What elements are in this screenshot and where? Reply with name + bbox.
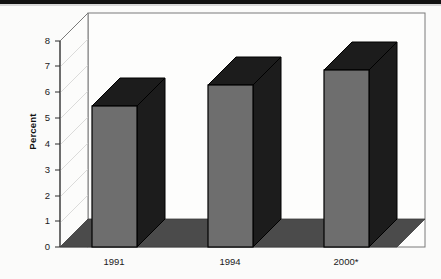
bar-1991 bbox=[92, 78, 165, 247]
bar-chart-3d: Percent 8 7 6 5 4 3 2 1 0 1991 1994 2000… bbox=[0, 0, 441, 279]
y-tick-label-8: 8 bbox=[28, 36, 50, 46]
y-tick-label-1: 1 bbox=[28, 216, 50, 226]
bar-1994 bbox=[208, 57, 281, 247]
bar-2000-side bbox=[369, 42, 397, 247]
chart-canvas bbox=[0, 0, 441, 279]
x-tick-label-1994: 1994 bbox=[195, 256, 265, 267]
y-axis-ticks bbox=[55, 41, 60, 247]
y-tick-label-2: 2 bbox=[28, 191, 50, 201]
y-tick-label-4: 4 bbox=[28, 139, 50, 149]
bar-1994-front bbox=[208, 85, 253, 247]
bar-2000-front bbox=[324, 70, 369, 247]
y-tick-label-7: 7 bbox=[28, 61, 50, 71]
bar-1994-side bbox=[253, 57, 281, 247]
y-tick-label-0: 0 bbox=[28, 242, 50, 252]
bar-1991-front bbox=[92, 106, 137, 247]
x-tick-label-2000: 2000* bbox=[311, 256, 381, 267]
plot-left-wall bbox=[60, 13, 88, 247]
y-tick-label-6: 6 bbox=[28, 87, 50, 97]
y-tick-label-3: 3 bbox=[28, 165, 50, 175]
x-tick-label-1991: 1991 bbox=[79, 256, 149, 267]
chart-figure: Percent 8 7 6 5 4 3 2 1 0 1991 1994 2000… bbox=[0, 0, 441, 279]
y-axis-label: Percent bbox=[27, 92, 38, 172]
bar-2000 bbox=[324, 42, 397, 247]
bar-1991-side bbox=[137, 78, 165, 247]
y-tick-label-5: 5 bbox=[28, 113, 50, 123]
